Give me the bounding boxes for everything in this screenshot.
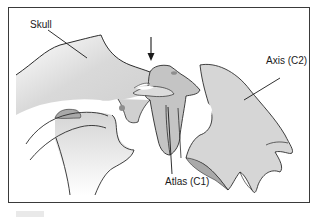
atlas-label: Atlas (C1) xyxy=(165,176,209,187)
mandible-shape xyxy=(55,112,134,195)
footer-tab xyxy=(16,211,44,217)
skull-label: Skull xyxy=(30,19,52,30)
downward-arrow-icon xyxy=(148,37,155,61)
joint-dot-atlas xyxy=(171,71,177,75)
atlas-shape xyxy=(145,65,200,155)
axis-label: Axis (C2) xyxy=(266,55,307,66)
spine-skull-illustration xyxy=(0,0,316,217)
joint-dot-skull xyxy=(119,105,125,111)
axis-shape xyxy=(186,64,293,192)
